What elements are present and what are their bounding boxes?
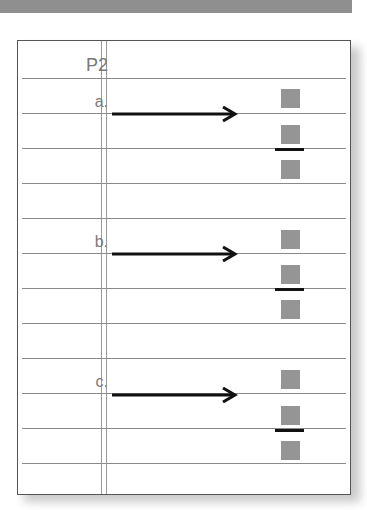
answer-box[interactable] <box>281 370 300 389</box>
denominator-box[interactable] <box>281 300 300 319</box>
fraction-bar <box>275 148 304 151</box>
problem-label: a. <box>95 93 108 111</box>
rule-line <box>22 78 346 79</box>
problem-label: b. <box>95 233 108 251</box>
denominator-box[interactable] <box>281 160 300 179</box>
rule-line <box>22 463 346 464</box>
fraction-bar <box>275 288 304 291</box>
fraction-bar <box>275 429 304 432</box>
numerator-box[interactable] <box>281 125 300 144</box>
arrow-right-icon <box>112 106 240 122</box>
numerator-box[interactable] <box>281 265 300 284</box>
rule-line <box>22 218 346 219</box>
denominator-box[interactable] <box>281 441 300 460</box>
problem-label: c. <box>96 373 108 391</box>
answer-box[interactable] <box>281 230 300 249</box>
rule-line <box>22 323 346 324</box>
page-title: P2 <box>86 55 108 76</box>
arrow-right-icon <box>112 387 240 403</box>
rule-line <box>22 358 346 359</box>
answer-box[interactable] <box>281 89 300 108</box>
arrow-right-icon <box>112 246 240 262</box>
rule-line <box>22 183 346 184</box>
numerator-box[interactable] <box>281 406 300 425</box>
worksheet: P2 a. b. c. <box>17 40 351 495</box>
top-bar <box>0 0 352 13</box>
